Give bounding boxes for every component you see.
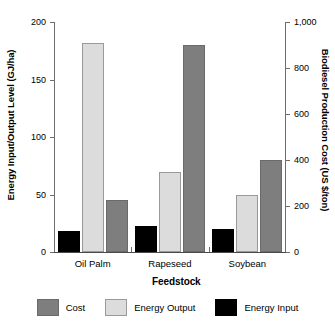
y-axis-left-tick-label: 150 (31, 75, 46, 85)
y-axis-left-tick-label: 100 (31, 132, 46, 142)
y-axis-right-tick (286, 252, 290, 253)
bar-cost (106, 200, 128, 252)
y-axis-left-tick (50, 252, 54, 253)
y-axis-right-tick (286, 22, 290, 23)
y-axis-left-tick (50, 195, 54, 196)
x-axis-category-separator (131, 247, 132, 252)
y-axis-left-title: Energy Input/Output Level (GJ/ha) (5, 50, 16, 201)
legend-label: Energy Input (244, 302, 298, 313)
y-axis-right-tick-label: 800 (294, 63, 309, 73)
x-axis-category-label: Soybean (229, 258, 267, 269)
legend-label: Energy Output (134, 302, 195, 313)
y-axis-left-tick (50, 80, 54, 81)
bar-energy-input (58, 231, 80, 252)
legend-swatch (215, 299, 237, 316)
y-axis-right-tick (286, 206, 290, 207)
bar-energy-output (159, 172, 181, 253)
y-axis-right-title: Biodiesel Production Cost (US $/ton) (320, 49, 331, 212)
y-axis-right-tick-label: 0 (294, 247, 299, 257)
legend-swatch (105, 299, 127, 316)
x-axis-category-label: Rapeseed (148, 258, 191, 269)
y-axis-right-line (285, 22, 286, 253)
bar-cost (183, 45, 205, 252)
chart-legend: CostEnergy OutputEnergy Input (0, 299, 335, 316)
bar-energy-output (82, 43, 104, 252)
y-axis-left-tick-label: 200 (31, 17, 46, 27)
y-axis-right-tick-label: 400 (294, 155, 309, 165)
y-axis-right-tick-label: 200 (294, 201, 309, 211)
legend-swatch (37, 299, 59, 316)
bar-cost (260, 160, 282, 252)
x-axis-title: Feedstock (152, 276, 201, 287)
x-axis-line (54, 252, 286, 253)
y-axis-right-tick-label: 600 (294, 109, 309, 119)
y-axis-left-line (54, 22, 55, 253)
legend-item: Energy Input (215, 299, 298, 316)
y-axis-left-tick (50, 22, 54, 23)
y-axis-left-tick (50, 137, 54, 138)
bar-energy-input (135, 226, 157, 252)
y-axis-right-tick (286, 68, 290, 69)
y-axis-right-tick-label: 1,000 (294, 17, 317, 27)
legend-item: Energy Output (105, 299, 195, 316)
legend-item: Cost (37, 299, 86, 316)
x-axis-category-label: Oil Palm (75, 258, 111, 269)
bar-energy-input (212, 229, 234, 252)
x-axis-category-separator (209, 247, 210, 252)
bar-energy-output (236, 195, 258, 253)
legend-label: Cost (66, 302, 86, 313)
y-axis-right-tick (286, 160, 290, 161)
y-axis-right-tick (286, 114, 290, 115)
y-axis-left-tick-label: 0 (41, 247, 46, 257)
biodiesel-feedstock-bar-chart: Energy Input/Output Level (GJ/ha) Biodie… (0, 0, 335, 332)
plot-area: 050100150200 02004006008001,000 Oil Palm… (54, 22, 286, 252)
y-axis-left-tick-label: 50 (36, 190, 46, 200)
